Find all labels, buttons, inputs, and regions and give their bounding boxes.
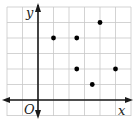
origin-label: O	[24, 102, 35, 117]
coordinate-plane: y O x	[0, 0, 136, 120]
data-point	[74, 67, 79, 72]
axes	[2, 3, 133, 119]
x-axis-label: x	[118, 103, 126, 118]
data-point	[90, 82, 95, 87]
data-point	[51, 36, 56, 41]
y-axis-down-arrow-icon	[35, 110, 41, 119]
data-point	[74, 36, 79, 41]
x-axis-right-arrow-icon	[125, 97, 133, 103]
y-axis-up-arrow-icon	[35, 3, 41, 12]
data-point	[98, 20, 103, 25]
x-axis-left-arrow-icon	[2, 97, 10, 103]
y-axis-label: y	[25, 5, 34, 20]
data-point	[113, 67, 118, 72]
